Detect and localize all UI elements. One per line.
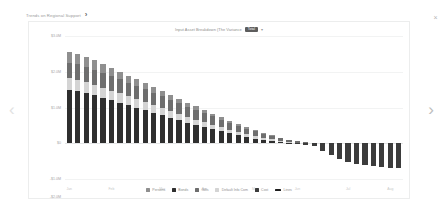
bar-negative[interactable] xyxy=(303,143,308,145)
bar-segment xyxy=(244,137,249,143)
legend-item[interactable]: Bonds xyxy=(172,188,188,192)
chevron-right-icon[interactable]: › xyxy=(85,11,88,19)
bar-positive[interactable] xyxy=(168,95,173,143)
bar-segment xyxy=(92,70,97,85)
bar-segment xyxy=(67,63,72,78)
bar-positive[interactable] xyxy=(143,83,148,143)
bar-positive[interactable] xyxy=(193,106,198,143)
legend-item[interactable]: Persons xyxy=(146,188,165,192)
bar-negative[interactable] xyxy=(354,143,359,164)
bar-positive[interactable] xyxy=(151,87,156,143)
bar-segment xyxy=(109,76,114,90)
bar-segment xyxy=(126,105,131,143)
bar-negative[interactable] xyxy=(371,143,376,166)
bar-segment xyxy=(295,143,300,144)
breadcrumb[interactable]: Trends on Regional Support › xyxy=(26,9,88,21)
bar-positive[interactable] xyxy=(75,54,80,143)
bar-positive[interactable] xyxy=(202,110,207,143)
bar-segment xyxy=(117,79,122,93)
bar-negative[interactable] xyxy=(345,143,350,162)
bar-segment xyxy=(84,67,89,82)
bar-segment xyxy=(261,140,266,143)
bar-segment xyxy=(227,123,232,130)
gridline xyxy=(65,108,403,109)
next-slide-button[interactable]: › xyxy=(428,101,434,118)
bar-positive[interactable] xyxy=(160,91,165,143)
bar-positive[interactable] xyxy=(84,57,89,143)
bar-positive[interactable] xyxy=(117,72,122,144)
legend-label: Default Info Com xyxy=(222,188,248,192)
legend-item[interactable]: Cost xyxy=(255,188,268,192)
bar-segment xyxy=(151,93,156,105)
bar-segment xyxy=(84,82,89,93)
bar-negative[interactable] xyxy=(337,143,342,158)
bar-positive[interactable] xyxy=(278,138,283,144)
legend-label: Bonds xyxy=(178,188,188,192)
bar-segment xyxy=(379,143,384,167)
bar-segment xyxy=(396,143,401,168)
bar-positive[interactable] xyxy=(176,99,181,143)
bar-negative[interactable] xyxy=(379,143,384,167)
y-axis-tick-label: $0 xyxy=(57,141,61,145)
bar-positive[interactable] xyxy=(92,60,97,143)
bar-segment xyxy=(227,133,232,143)
gridline xyxy=(65,36,403,37)
close-button[interactable]: × xyxy=(431,13,440,22)
bar-segment xyxy=(75,54,80,64)
bar-segment xyxy=(109,91,114,101)
bar-segment xyxy=(160,96,165,108)
bar-segment xyxy=(320,143,325,151)
bar-positive[interactable] xyxy=(67,52,72,143)
legend-label: Lines xyxy=(284,188,292,192)
bar-segment xyxy=(202,127,207,143)
bar-positive[interactable] xyxy=(100,64,105,143)
bar-positive[interactable] xyxy=(126,76,131,144)
bar-positive[interactable] xyxy=(219,117,224,143)
bar-segment xyxy=(126,96,131,105)
bar-negative[interactable] xyxy=(362,143,367,165)
bar-segment xyxy=(75,64,80,79)
bar-positive[interactable] xyxy=(227,121,232,144)
bar-segment xyxy=(176,103,181,114)
bar-negative[interactable] xyxy=(388,143,393,168)
bar-positive[interactable] xyxy=(286,140,291,144)
bar-segment xyxy=(92,95,97,143)
bar-segment xyxy=(109,100,114,143)
y-axis-tick-label: $1.0M xyxy=(51,106,61,110)
bar-positive[interactable] xyxy=(253,130,258,143)
gridline xyxy=(65,72,403,73)
bar-segment xyxy=(269,141,274,143)
bar-positive[interactable] xyxy=(185,103,190,144)
bar-segment xyxy=(151,113,156,143)
bar-segment xyxy=(67,90,72,144)
bar-negative[interactable] xyxy=(320,143,325,151)
bar-negative[interactable] xyxy=(329,143,334,155)
legend-label: Cost xyxy=(261,188,268,192)
bar-segment xyxy=(278,142,283,143)
bar-positive[interactable] xyxy=(236,124,241,143)
prev-slide-button[interactable]: ‹ xyxy=(9,101,15,118)
legend-swatch-icon xyxy=(215,188,219,192)
y-axis-tick-label: -$1.0M xyxy=(50,177,61,181)
bar-segment xyxy=(117,93,122,102)
bar-positive[interactable] xyxy=(210,114,215,144)
bar-negative[interactable] xyxy=(295,143,300,144)
legend-item[interactable]: Lines xyxy=(275,188,292,192)
bar-positive[interactable] xyxy=(244,127,249,143)
bar-positive[interactable] xyxy=(109,68,114,143)
legend-item[interactable]: Default Info Com xyxy=(215,188,247,192)
bar-segment xyxy=(354,143,359,164)
bar-positive[interactable] xyxy=(269,135,274,143)
bar-segment xyxy=(371,143,376,166)
bar-negative[interactable] xyxy=(396,143,401,168)
zero-line xyxy=(65,143,403,144)
y-axis-tick-label: $3.0M xyxy=(51,34,61,38)
chart-scope-pill[interactable]: Total xyxy=(245,27,258,33)
bar-negative[interactable] xyxy=(312,143,317,146)
bar-positive[interactable] xyxy=(261,133,266,144)
legend-item[interactable]: Gilts xyxy=(195,188,208,192)
chevron-down-icon[interactable]: ▾ xyxy=(261,28,263,32)
plot-area: $3.0M$2.0M$1.0M$0-$1.0M-$2.0MJanFebMarAp… xyxy=(65,36,403,179)
bar-positive[interactable] xyxy=(134,79,139,143)
plot-canvas: $3.0M$2.0M$1.0M$0-$1.0M-$2.0MJanFebMarAp… xyxy=(65,36,403,179)
